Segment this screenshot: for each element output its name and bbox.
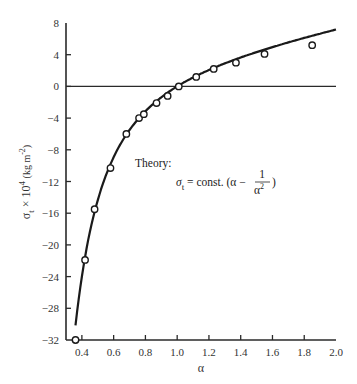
y-tick-label: −8 <box>47 144 59 156</box>
y-tick-label: −28 <box>42 302 60 314</box>
y-tick-label: 8 <box>54 17 60 29</box>
y-tick-label: −24 <box>42 271 60 283</box>
data-point <box>164 93 170 99</box>
theory-annotation: Theory: σt = const. (α − 1 α2 ) <box>135 157 276 196</box>
data-point <box>91 206 97 212</box>
y-tick-label: −32 <box>42 334 59 346</box>
x-tick-label: 1.4 <box>234 346 248 358</box>
x-tick-label: 0.4 <box>75 346 89 358</box>
y-tick-label: −4 <box>47 112 59 124</box>
x-tick-label: 1.0 <box>170 346 184 358</box>
x-tick-label: 1.8 <box>297 346 311 358</box>
data-point <box>261 51 267 57</box>
theory-label: Theory: <box>135 157 171 170</box>
data-point <box>72 337 78 343</box>
data-point <box>141 111 147 117</box>
data-point <box>193 74 199 80</box>
data-point <box>153 100 159 106</box>
theory-equation: σt = const. (α − <box>176 176 246 192</box>
svg-text:σt × 104 (kg m-2): σt × 104 (kg m-2) <box>17 145 36 219</box>
close-paren: ) <box>272 176 276 189</box>
data-point <box>176 83 182 89</box>
data-point <box>82 257 88 263</box>
x-tick-label: 0.6 <box>107 346 121 358</box>
x-tick-label: 1.2 <box>202 346 216 358</box>
chart: 0.40.60.81.01.21.41.61.82.0840−4−8−12−16… <box>0 0 357 384</box>
data-point <box>123 131 129 137</box>
x-tick-label: 1.6 <box>266 346 280 358</box>
data-point <box>107 165 113 171</box>
y-tick-label: −12 <box>42 176 59 188</box>
data-point <box>233 59 239 65</box>
y-tick-label: 4 <box>54 49 60 61</box>
data-point <box>211 66 217 72</box>
y-tick-label: −20 <box>42 239 60 251</box>
x-tick-label: 0.8 <box>139 346 153 358</box>
y-axis-label: σt × 104 (kg m-2) <box>17 145 36 219</box>
x-axis-label: α <box>198 361 205 375</box>
x-tick-label: 2.0 <box>329 346 343 358</box>
fraction-numerator: 1 <box>259 168 265 180</box>
y-tick-label: −16 <box>42 207 60 219</box>
y-tick-label: 0 <box>54 80 60 92</box>
fraction-denominator: α2 <box>254 182 264 196</box>
data-point <box>309 42 315 48</box>
data-points <box>72 42 315 343</box>
